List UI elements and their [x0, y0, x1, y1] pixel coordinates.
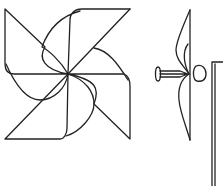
blade-top-left [5, 9, 68, 74]
pinwheel-front-view [5, 9, 130, 139]
pinwheel-diagram [0, 0, 223, 186]
blade-bottom-right-curve [94, 48, 128, 80]
blade-right-lower-curve [66, 74, 94, 136]
bead [193, 65, 206, 81]
blade-bottom-left-curve [6, 64, 68, 100]
blade-bottom-right [68, 74, 130, 139]
pinwheel-side-view [156, 10, 224, 186]
pin-shaft [160, 71, 188, 77]
side-blade-lower [179, 74, 190, 140]
blade-top-right-diag [68, 9, 130, 74]
side-blade-upper [176, 10, 190, 74]
blade-bottom-left [5, 74, 68, 139]
